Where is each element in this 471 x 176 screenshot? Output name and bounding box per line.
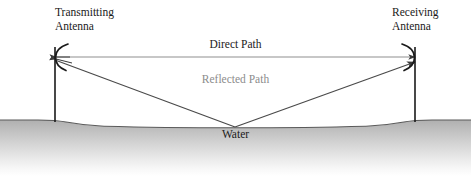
water-label: Water	[0, 127, 471, 141]
receiving-antenna-label-line1: Receiving	[392, 6, 439, 18]
receiving-antenna-label-line2: Antenna	[392, 20, 431, 32]
reflected-path-label: Reflected Path	[0, 72, 471, 86]
direct-path-label: Direct Path	[0, 37, 471, 51]
transmitting-antenna-label-line1: Transmitting	[55, 6, 114, 18]
transmitting-antenna-label: TransmittingAntenna	[55, 5, 114, 33]
reflected-path-incident-line	[55, 60, 235, 127]
receiving-antenna-label: ReceivingAntenna	[392, 5, 439, 33]
radio-propagation-diagram: TransmittingAntenna ReceivingAntenna Dir…	[0, 0, 471, 176]
transmitting-antenna-label-line2: Antenna	[55, 20, 94, 32]
